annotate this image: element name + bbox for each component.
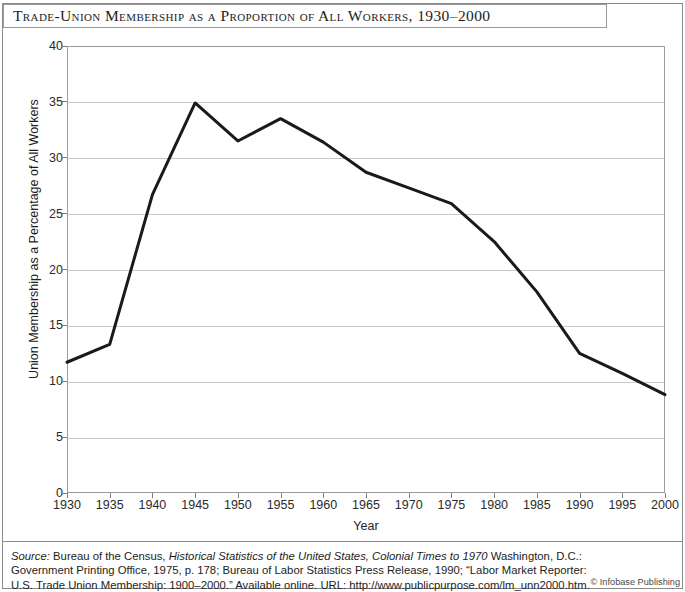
source-note: Source: Bureau of the Census, Historical… (11, 549, 571, 592)
source-divider (3, 541, 682, 542)
y-tick-mark-15 (62, 325, 67, 326)
x-tick-mark-1960 (323, 493, 324, 498)
y-tick-label-5: 5 (37, 431, 63, 444)
source-line-3: U.S. Trade Union Membership: 1900–2000.”… (11, 578, 571, 592)
y-tick-mark-5 (62, 437, 67, 438)
source-title-italic: Historical Statistics of the United Stat… (169, 550, 488, 562)
x-tick-mark-1955 (281, 493, 282, 498)
x-tick-mark-1975 (451, 493, 452, 498)
y-tick-mark-35 (62, 101, 67, 102)
source-label: Source: (11, 550, 50, 562)
x-tick-mark-1935 (110, 493, 111, 498)
y-tick-mark-20 (62, 269, 67, 270)
chart-title-box: Trade-Union Membership as a Proportion o… (3, 4, 607, 28)
source-line-1-b: Washington, D.C.: (488, 550, 582, 562)
x-tick-mark-2000 (665, 493, 666, 498)
y-tick-mark-10 (62, 381, 67, 382)
page-title: Trade-Union Membership as a Proportion o… (4, 8, 491, 24)
source-line-1-a: Bureau of the Census, (50, 550, 169, 562)
figure-root: Trade-Union Membership as a Proportion o… (0, 0, 685, 592)
y-tick-label-40: 40 (37, 40, 63, 53)
x-tick-mark-1990 (580, 493, 581, 498)
x-tick-mark-1945 (195, 493, 196, 498)
x-tick-mark-1940 (152, 493, 153, 498)
union-membership-line (67, 103, 665, 395)
x-tick-mark-1970 (409, 493, 410, 498)
x-tick-mark-1995 (622, 493, 623, 498)
x-tick-mark-1980 (494, 493, 495, 498)
y-axis-title: Union Membership as a Percentage of All … (27, 89, 41, 389)
x-tick-mark-1950 (238, 493, 239, 498)
x-tick-mark-1930 (67, 493, 68, 498)
y-tick-mark-30 (62, 157, 67, 158)
x-tick-label-2000: 2000 (635, 499, 685, 512)
data-line-series (67, 46, 665, 493)
x-axis-title: Year (67, 519, 665, 533)
x-tick-mark-1985 (537, 493, 538, 498)
publisher-credit: © Infobase Publishing (545, 577, 680, 587)
y-tick-mark-25 (62, 213, 67, 214)
source-line-2: Government Printing Office, 1975, p. 178… (11, 563, 571, 577)
x-tick-mark-1965 (366, 493, 367, 498)
y-tick-mark-40 (62, 46, 67, 47)
source-line-1: Source: Bureau of the Census, Historical… (11, 549, 571, 563)
x-axis-tick-labels: 1930193519401945195019551960196519701975… (67, 499, 665, 515)
